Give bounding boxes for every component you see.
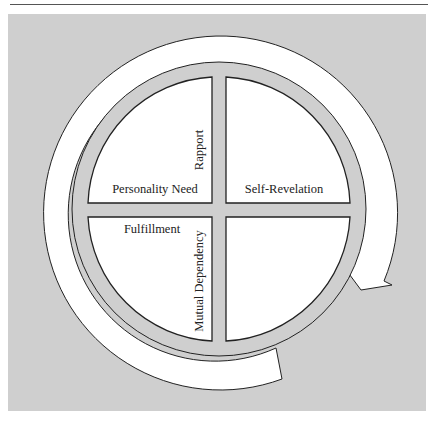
- label-fulfillment: Fulfillment: [124, 222, 181, 236]
- wheel-diagram: Personality Need Rapport Self-Revelation…: [0, 0, 440, 422]
- label-rapport: Rapport: [192, 129, 206, 170]
- label-mutual-dependency: Mutual Dependency: [192, 229, 206, 331]
- quadrant-bottom-right: [226, 217, 350, 341]
- label-self-revelation: Self-Revelation: [245, 182, 324, 196]
- label-personality-need: Personality Need: [112, 182, 198, 196]
- outer-ring: [72, 62, 366, 356]
